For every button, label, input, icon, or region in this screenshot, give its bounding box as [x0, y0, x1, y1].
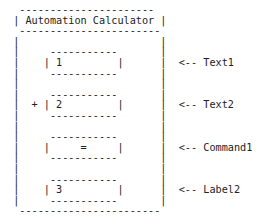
- top-border: ----------------------: [7, 5, 252, 16]
- ascii-diagram: ---------------------- | Automation Calc…: [7, 5, 252, 217]
- text1-line: | | 1 | | <-- Text1: [7, 58, 252, 69]
- bottom-border: -----------------------: [7, 206, 252, 217]
- text2-box-bottom: | ----------- |: [7, 111, 252, 122]
- spacer-line: | |: [7, 164, 252, 175]
